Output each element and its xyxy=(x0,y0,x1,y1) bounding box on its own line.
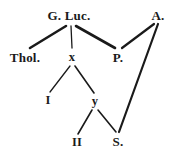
stemma-node-p: P. xyxy=(113,51,123,64)
stemma-edge-gluc-x xyxy=(71,26,72,48)
stemma-edge-x-y xyxy=(75,66,94,93)
stemma-edge-a-s xyxy=(119,24,158,132)
stemma-edge-gluc-p xyxy=(76,26,115,48)
stemma-edge-y-ii xyxy=(78,110,92,134)
stemma-edge-gluc-thol xyxy=(30,26,66,48)
stemma-node-y: y xyxy=(92,95,98,108)
stemma-node-x: x xyxy=(69,51,75,64)
stemma-node-a: A. xyxy=(151,9,164,22)
stemma-node-i: I xyxy=(45,94,50,107)
stemma-diagram: G. Luc.A.Thol.xP.IyIIS. xyxy=(0,0,180,155)
stemma-edge-x-i xyxy=(50,66,70,92)
stemma-node-s: S. xyxy=(113,135,124,148)
stemma-edge-y-s xyxy=(98,110,116,132)
stemma-node-ii: II xyxy=(72,136,82,149)
stemma-edge-a-p xyxy=(122,24,154,48)
stemma-node-gluc: G. Luc. xyxy=(48,9,91,22)
stemma-node-thol: Thol. xyxy=(10,51,40,64)
stemma-edges-layer xyxy=(0,0,180,155)
